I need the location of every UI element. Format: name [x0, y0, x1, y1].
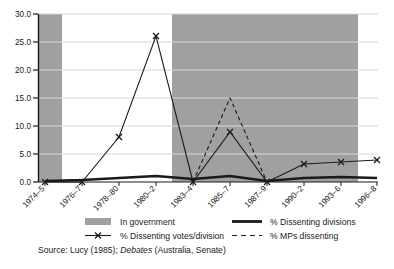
ytick-label-5: 5.0: [20, 150, 32, 159]
legend-label-mps-dissenting: % MPs dissenting: [270, 231, 339, 241]
source-prefix: Source:: [38, 245, 68, 255]
xtick-label-1987-9: 1987–9: [243, 184, 269, 210]
xtick-label-1980-2: 1980–2: [132, 184, 158, 210]
xtick-label-1996-8: 1996–8: [353, 184, 379, 210]
xtick-label-1974-5: 1974–5: [21, 184, 47, 210]
xtick-label-1993-6: 1993–6: [317, 184, 343, 210]
dissent-line-chart: 30.0 25.0 20.0 15.0 10.0 5.0 0.0 1974–5 …: [0, 0, 394, 245]
ytick-label-25: 25.0: [15, 38, 31, 47]
chart-figure: 30.0 25.0 20.0 15.0 10.0 5.0 0.0 1974–5 …: [0, 0, 394, 269]
chart-legend: In government % Dissenting divisions % D…: [85, 217, 356, 241]
ytick-label-10: 10.0: [15, 122, 31, 131]
y-tick-marks: [33, 14, 38, 182]
xtick-label-1978-80: 1978–80: [92, 184, 121, 213]
xtick-label-1990-2: 1990–2: [280, 184, 306, 210]
source-italic-title: Debates: [120, 245, 152, 255]
x-tick-labels: 1974–5 1976–7 1978–80 1980–2 1983–4 1985…: [21, 184, 379, 213]
xtick-label-1983-4: 1983–4: [169, 184, 195, 210]
ytick-label-15: 15.0: [15, 94, 31, 103]
ytick-label-0: 0.0: [20, 178, 32, 187]
source-citation: Lucy (1985);: [70, 245, 118, 255]
source-suffix: (Australia, Senate): [155, 245, 226, 255]
y-tick-labels: 30.0 25.0 20.0 15.0 10.0 5.0 0.0: [15, 10, 31, 187]
legend-label-dissenting-divisions: % Dissenting divisions: [270, 217, 356, 227]
legend-label-in-government: In government: [120, 217, 176, 227]
ytick-label-30: 30.0: [15, 10, 31, 19]
legend-swatch-in-government: [85, 218, 111, 225]
ytick-label-20: 20.0: [15, 66, 31, 75]
legend-label-dissenting-votes-division: % Dissenting votes/division: [120, 231, 224, 241]
xtick-label-1976-7: 1976–7: [58, 184, 84, 210]
source-note: Source: Lucy (1985); Debates (Australia,…: [38, 245, 226, 255]
x-tick-marks: [45, 182, 377, 186]
xtick-label-1985-7: 1985–7: [206, 184, 232, 210]
